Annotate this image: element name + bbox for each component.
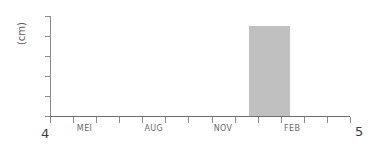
x-tick — [119, 117, 120, 123]
bar — [249, 26, 290, 116]
y-tick — [45, 76, 50, 77]
x-tick — [73, 117, 74, 123]
x-tick — [188, 117, 189, 123]
x-tick — [235, 117, 236, 123]
x-tick — [327, 117, 328, 123]
bar-chart: (cm) 01020304050 MEIAUGNOVFEB 4 5 — [0, 0, 377, 148]
x-axis-line — [50, 116, 350, 117]
x-tick — [165, 117, 166, 123]
x-tick — [350, 117, 351, 123]
x-tick — [96, 117, 97, 123]
y-tick — [45, 96, 50, 97]
corner-label-left: 4 — [41, 126, 49, 141]
x-tick — [50, 117, 51, 123]
x-tick-label: MEI — [65, 124, 105, 133]
x-tick — [258, 117, 259, 123]
x-tick-label: NOV — [203, 124, 243, 133]
y-tick — [45, 56, 50, 57]
y-tick — [45, 16, 50, 17]
plot-area: 01020304050 MEIAUGNOVFEB — [50, 16, 350, 116]
y-tick — [45, 36, 50, 37]
y-axis-line — [50, 16, 51, 117]
x-tick — [142, 117, 143, 123]
x-tick — [212, 117, 213, 123]
y-axis-title: (cm) — [16, 19, 27, 49]
x-tick-label: FEB — [272, 124, 312, 133]
corner-label-right: 5 — [355, 124, 363, 139]
x-tick — [304, 117, 305, 123]
x-tick-label: AUG — [134, 124, 174, 133]
x-tick — [281, 117, 282, 123]
